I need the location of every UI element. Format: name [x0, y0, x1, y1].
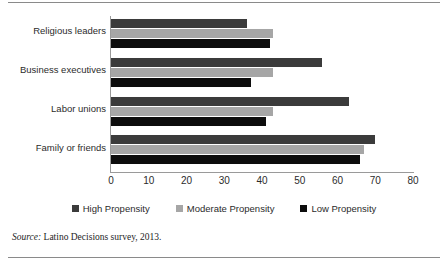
figure-bottom-rule: [8, 257, 440, 258]
bar: [111, 19, 247, 28]
bar-chart: Religious leadersBusiness executivesLabo…: [0, 6, 448, 194]
legend-swatch-icon: [176, 205, 183, 212]
x-tick-label: 0: [108, 175, 114, 186]
legend-label: High Propensity: [83, 203, 150, 214]
bar-group: [111, 57, 413, 90]
bar: [111, 58, 322, 67]
legend-label: Low Propensity: [311, 203, 376, 214]
bar: [111, 145, 364, 154]
category-label: Religious leaders: [2, 25, 106, 36]
bar: [111, 68, 273, 77]
legend-swatch-icon: [72, 205, 79, 212]
x-axis-line: [110, 172, 414, 173]
x-tick-label: 60: [332, 175, 343, 186]
category-axis-labels: Religious leadersBusiness executivesLabo…: [0, 16, 106, 171]
x-tick-label: 40: [256, 175, 267, 186]
x-tick-label: 20: [181, 175, 192, 186]
plot-area: [111, 16, 413, 171]
figure-container: Religious leadersBusiness executivesLabo…: [0, 0, 448, 266]
x-tick-label: 70: [370, 175, 381, 186]
bar: [111, 155, 360, 164]
bar: [111, 107, 273, 116]
source-text: Latino Decisions survey, 2013.: [41, 232, 161, 242]
bar-group: [111, 96, 413, 129]
bar: [111, 78, 251, 87]
bar: [111, 39, 270, 48]
x-axis-tick-labels: 01020304050607080: [111, 175, 413, 191]
legend-swatch-icon: [300, 205, 307, 212]
source-note: Source: Latino Decisions survey, 2013.: [12, 232, 161, 242]
legend-label: Moderate Propensity: [187, 203, 275, 214]
chart-legend: High PropensityModerate PropensityLow Pr…: [0, 198, 448, 218]
bar: [111, 97, 349, 106]
x-tick-label: 80: [407, 175, 418, 186]
bar: [111, 117, 266, 126]
legend-item[interactable]: Moderate Propensity: [176, 203, 275, 214]
x-tick-label: 10: [143, 175, 154, 186]
legend-item[interactable]: High Propensity: [72, 203, 150, 214]
bar-group: [111, 134, 413, 167]
source-label: Source:: [12, 232, 41, 242]
x-tick-label: 50: [294, 175, 305, 186]
bar: [111, 135, 375, 144]
figure-top-rule: [8, 2, 440, 3]
x-tick-label: 30: [219, 175, 230, 186]
bar: [111, 29, 273, 38]
category-label: Business executives: [2, 64, 106, 75]
category-label: Family or friends: [2, 142, 106, 153]
category-label: Labor unions: [2, 103, 106, 114]
bar-group: [111, 18, 413, 51]
legend-item[interactable]: Low Propensity: [300, 203, 376, 214]
